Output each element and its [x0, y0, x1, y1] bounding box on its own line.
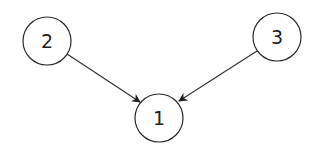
- node-2[interactable]: 2: [23, 17, 71, 65]
- node-1-label: 1: [153, 107, 165, 129]
- edge-2-to-1: [67, 54, 140, 102]
- node-3[interactable]: 3: [253, 13, 301, 61]
- node-1[interactable]: 1: [135, 94, 183, 142]
- graph-canvas: 2 3 1: [0, 0, 319, 151]
- node-3-label: 3: [271, 26, 283, 48]
- edge-3-to-1: [179, 51, 257, 101]
- node-2-label: 2: [41, 30, 53, 52]
